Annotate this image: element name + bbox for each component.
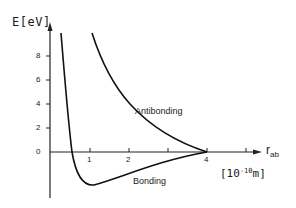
- antibonding-curve: [92, 33, 207, 152]
- y-axis-title: E[eV]: [12, 17, 51, 27]
- y-tick-label-8: 8: [36, 51, 40, 61]
- x-tick-label-1: 1: [87, 155, 91, 165]
- bonding-label: Bonding: [133, 176, 166, 186]
- antibonding-label: Antibonding: [135, 106, 183, 116]
- x-unit-exp: -10: [240, 167, 253, 175]
- x-tick-label-2: 2: [126, 155, 130, 165]
- x-axis-arrow-icon: [253, 150, 262, 155]
- x-axis-symbol: rab: [266, 145, 279, 160]
- y-tick-label-6: 6: [36, 75, 40, 85]
- x-unit-suffix: m]: [253, 167, 266, 180]
- y-tick-label-2: 2: [36, 123, 40, 133]
- x-axis-symbol-sub: ab: [270, 150, 279, 159]
- y-tick-label-0: 0: [36, 147, 40, 157]
- y-tick-label-4: 4: [36, 99, 40, 109]
- x-tick-label-4: 4: [204, 155, 208, 165]
- x-unit-prefix: [10: [220, 167, 240, 180]
- x-axis-unit: [10-10m]: [220, 166, 266, 179]
